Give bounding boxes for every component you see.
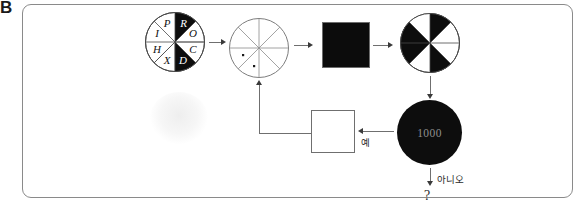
pinwheel — [399, 12, 461, 74]
empty-square — [311, 110, 355, 153]
counter-disc-value: 1000 — [417, 127, 442, 139]
edge-label-no: 아니오 — [437, 172, 464, 186]
terminal-question-mark: ? — [424, 188, 430, 204]
wheel-letter-h: H — [152, 43, 162, 55]
wheel-letter-d: D — [178, 54, 187, 66]
wheel-letter-r: R — [179, 17, 187, 29]
edge-5-arrowhead — [358, 128, 363, 134]
edge-3-arrowhead — [388, 42, 393, 48]
black-square — [322, 22, 370, 68]
wheel-letter-o: O — [189, 27, 197, 39]
panel-label: B — [0, 0, 12, 18]
edge-7-hline — [259, 133, 311, 134]
wheel-dot-1 — [242, 54, 244, 56]
empty-wheel — [228, 17, 290, 79]
wheel-letter-c: C — [189, 43, 197, 55]
figure-border — [22, 4, 573, 198]
edge-4-arrowhead — [427, 94, 433, 99]
wheel-letter-p: P — [163, 17, 171, 29]
edge-6-arrowhead — [427, 181, 433, 186]
edge-5-line — [362, 131, 394, 132]
edge-label-yes: 예 — [361, 135, 370, 149]
lettered-wheel: P R O C D X H I — [144, 11, 206, 73]
edge-7-vline — [259, 84, 260, 134]
counter-disc: 1000 — [397, 100, 462, 165]
figure-panel: B P R O C D X H I — [0, 0, 580, 213]
edge-2-arrowhead — [308, 42, 313, 48]
edge-4-line — [430, 76, 431, 96]
edge-1-arrowhead — [221, 39, 226, 45]
wheel-dot-2 — [253, 65, 255, 67]
edge-7-arrowhead — [256, 80, 262, 85]
faint-ghost-blob — [150, 92, 208, 144]
wheel-letter-x: X — [163, 54, 172, 66]
